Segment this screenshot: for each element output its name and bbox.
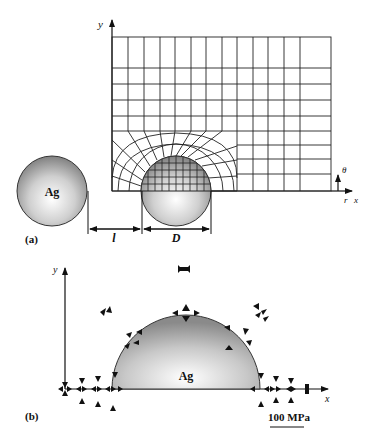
local-axes: θ r x [331,165,358,205]
particle-label-ag: Ag [45,185,60,199]
panel-b-y-label: y [52,264,58,275]
semicircle-label-ag: Ag [179,369,194,383]
diameter-label-D: D [171,231,181,245]
gap-label-l: l [112,231,116,245]
r-label: r [344,195,348,205]
panel-a-y-axis: y [97,18,112,191]
figure-canvas: y [0,0,375,438]
ag-semicircle: Ag [112,315,260,389]
scale-bar: 100 MPa [268,411,310,427]
panel-a-label: (a) [25,233,38,246]
ag-particle-center [112,150,331,226]
fe-mesh-upper [112,37,331,191]
panel-a-y-label: y [97,18,103,30]
panel-b-x-label: x [324,393,330,404]
ag-particle-left: Ag [17,156,87,226]
panel-b-label: (b) [25,410,39,423]
scale-bar-label: 100 MPa [268,411,310,423]
x-label: x [353,195,358,205]
panel-b: y x Ag [25,264,330,427]
panel-a: y [17,18,358,246]
theta-label: θ [342,165,347,175]
